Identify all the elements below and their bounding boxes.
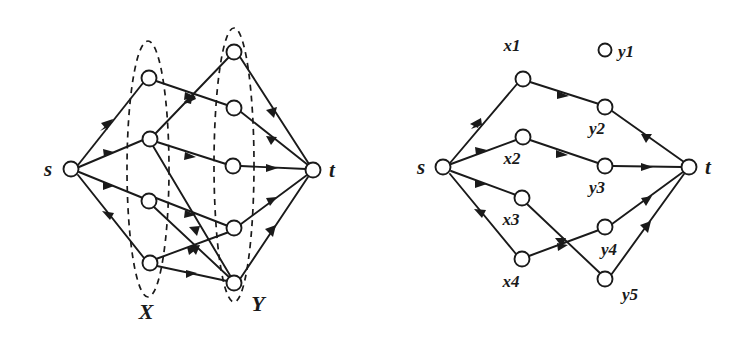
node-y2-left[interactable]: [227, 101, 242, 116]
node-y3-right[interactable]: [598, 159, 613, 174]
label-x4: x4: [502, 272, 520, 291]
node-y1-right[interactable]: [599, 44, 612, 57]
label-x2: x2: [503, 149, 522, 168]
label-s-right: s: [416, 155, 425, 179]
right-labels: s t x1 x2 x3 x4 y1 y2 y3 y4 y5: [416, 36, 712, 304]
node-y4-right[interactable]: [598, 220, 613, 235]
edge-y5-t: [240, 177, 308, 279]
edge-s-x4: [78, 175, 144, 258]
label-x1: x1: [503, 36, 521, 55]
node-x2-left[interactable]: [143, 132, 158, 147]
node-t-left[interactable]: [306, 163, 321, 178]
label-y3: y3: [587, 178, 606, 197]
label-x3: x3: [502, 210, 521, 229]
right-nodes: [436, 44, 697, 287]
node-y3-left[interactable]: [226, 159, 241, 174]
edge-s-x3-right: [451, 171, 516, 195]
node-x4-left[interactable]: [143, 256, 158, 271]
node-s-left[interactable]: [64, 162, 79, 177]
edge-y4-t: [241, 175, 307, 224]
label-y4: y4: [599, 240, 617, 259]
node-x3-right[interactable]: [515, 191, 530, 206]
label-t-right: t: [705, 155, 712, 179]
edge-y2-t-right: [612, 111, 684, 162]
edge-y4-t-right: [612, 172, 683, 224]
node-x3-left[interactable]: [142, 194, 157, 209]
node-x2-right[interactable]: [516, 130, 531, 145]
node-y4-left[interactable]: [227, 221, 242, 236]
edge-x3-y5-right: [527, 204, 601, 274]
edge-x4-y5: [157, 266, 227, 281]
edge-x2-y1: [155, 57, 229, 134]
label-y1: y1: [616, 42, 634, 61]
node-x4-right[interactable]: [515, 252, 530, 267]
edge-s-x2: [79, 140, 143, 167]
edge-y1-t: [240, 57, 309, 164]
node-y2-right[interactable]: [598, 100, 613, 115]
node-s-right[interactable]: [436, 160, 451, 175]
node-y5-left[interactable]: [227, 276, 242, 291]
edge-s-x3: [79, 172, 143, 198]
edge-x4-y4-right: [529, 230, 599, 256]
node-x1-left[interactable]: [142, 71, 157, 86]
edge-x3-y4: [156, 198, 228, 226]
label-t-left: t: [329, 158, 336, 182]
node-y1-left[interactable]: [227, 45, 242, 60]
edge-x1-y2-right: [530, 82, 599, 104]
label-y2: y2: [587, 119, 606, 138]
edge-x2-y3: [157, 142, 226, 164]
edge-y3-t: [241, 164, 306, 172]
node-y5-right[interactable]: [598, 272, 613, 287]
label-s-left: s: [43, 157, 52, 181]
edge-y5-t-right: [611, 174, 684, 275]
edge-y3-t-right: [613, 163, 682, 171]
label-set-y: Y: [251, 291, 267, 316]
node-t-right[interactable]: [682, 160, 697, 175]
label-set-x: X: [138, 299, 155, 324]
right-diagram: s t x1 x2 x3 x4 y1 y2 y3 y4 y5: [416, 36, 712, 304]
left-source-edges: [78, 83, 144, 258]
edge-x2-y3-right: [530, 140, 598, 163]
left-diagram: s t X Y: [43, 28, 336, 324]
label-y5: y5: [620, 285, 639, 304]
right-sink-edges: [611, 111, 684, 275]
edge-y2-t: [241, 112, 308, 165]
node-x1-right[interactable]: [516, 72, 531, 87]
bipartite-matching-figure: s t X Y: [0, 0, 741, 337]
